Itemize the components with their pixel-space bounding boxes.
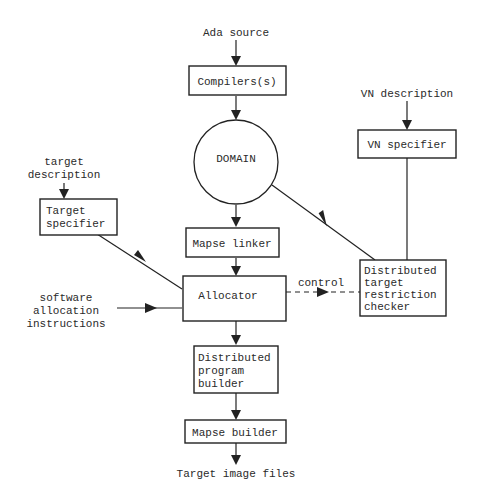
- node-target-specifier-line2: specifier: [46, 218, 105, 230]
- input-software-allocation-line1: software: [40, 292, 93, 304]
- arrowhead-icon: [231, 266, 241, 276]
- node-domain-label: DOMAIN: [216, 153, 256, 165]
- arrowhead-icon: [231, 110, 241, 120]
- node-dpb-line1: Distributed: [198, 352, 271, 364]
- node-mapse-builder-label: Mapse builder: [192, 427, 278, 439]
- arrowhead-icon: [134, 250, 146, 262]
- node-dpb-line2: program: [198, 365, 245, 377]
- node-target-specifier-line1: Target: [46, 205, 86, 217]
- node-target-specifier: Target specifier: [40, 199, 117, 235]
- node-dtrc-line1: Distributed: [364, 265, 437, 277]
- input-ada-source: Ada source: [203, 27, 269, 39]
- flow-diagram: Ada source VN description target descrip…: [0, 0, 479, 495]
- node-dtrc-line4: checker: [364, 301, 410, 313]
- output-target-image-files: Target image files: [177, 468, 296, 480]
- arrowhead-icon: [231, 410, 241, 420]
- arrowhead-icon: [317, 209, 329, 226]
- edge-domain-to-dtrc: [272, 185, 375, 260]
- node-allocator-label: Allocator: [198, 290, 257, 302]
- node-compilers: Compilers(s): [189, 66, 286, 95]
- arrowhead-icon: [145, 303, 157, 313]
- arrowhead-icon: [231, 335, 241, 345]
- node-dtrc-line3: restriction: [364, 289, 437, 301]
- node-vn-specifier: VN specifier: [358, 130, 456, 158]
- input-target-description-line2: description: [28, 169, 101, 181]
- arrowhead-icon: [402, 120, 412, 130]
- node-allocator: Allocator: [183, 276, 286, 321]
- arrowhead-icon: [59, 189, 69, 199]
- node-dpb-line3: builder: [198, 378, 244, 390]
- node-dtrc: Distributed target restriction checker: [360, 260, 446, 316]
- input-vn-description: VN description: [361, 88, 453, 100]
- input-software-allocation-line2: allocation: [33, 305, 99, 317]
- node-dtrc-line2: target: [364, 277, 404, 289]
- node-mapse-linker: Mapse linker: [186, 228, 279, 257]
- node-compilers-label: Compilers(s): [197, 76, 276, 88]
- node-mapse-builder: Mapse builder: [185, 420, 286, 443]
- node-dpb: Distributed program builder: [194, 346, 278, 393]
- edge-targetspec-to-allocator: [97, 234, 182, 289]
- input-software-allocation-line3: instructions: [26, 318, 105, 330]
- node-mapse-linker-label: Mapse linker: [192, 238, 271, 250]
- edge-label-control: control: [298, 277, 344, 289]
- arrowhead-icon: [231, 56, 241, 66]
- arrowhead-icon: [231, 217, 241, 227]
- arrowhead-icon: [231, 455, 241, 465]
- input-target-description-line1: target: [44, 156, 84, 168]
- node-domain: DOMAIN: [194, 120, 278, 204]
- node-vn-specifier-label: VN specifier: [367, 139, 446, 151]
